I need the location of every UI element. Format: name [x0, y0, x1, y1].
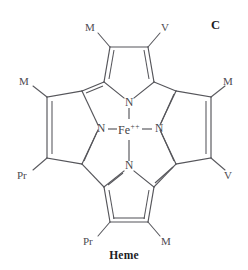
substituent-top-left-label: M — [85, 22, 95, 33]
panel-letter-c: C — [211, 18, 220, 33]
substituent-right-lower-label: V — [224, 170, 232, 181]
substituent-left-lower-label: Pr — [17, 170, 27, 181]
iron-symbol: Fe — [118, 123, 130, 137]
nitrogen-top-label: N — [125, 97, 133, 109]
substituent-bottom-right-label: M — [161, 236, 171, 247]
nitrogen-right-label: N — [155, 123, 163, 135]
nitrogen-bottom-label: N — [125, 160, 133, 172]
substituent-right-upper-label: M — [223, 76, 233, 87]
iron-center-label: Fe++ — [118, 123, 140, 136]
top-pyrrole-ring — [104, 47, 154, 98]
iron-charge: ++ — [130, 122, 140, 131]
substituent-left-upper-label: M — [19, 76, 29, 87]
heme-structure-figure: N N N N Fe++ M V M Pr M V Pr M C Heme — [0, 0, 248, 270]
figure-caption: Heme — [0, 249, 248, 261]
nitrogen-left-label: N — [97, 123, 105, 135]
substituent-bottom-left-label: Pr — [83, 236, 93, 247]
left-pyrrole-ring — [47, 91, 98, 164]
right-pyrrole-ring — [160, 91, 211, 164]
bottom-pyrrole-ring — [104, 171, 154, 222]
substituent-top-right-label: V — [161, 22, 169, 33]
